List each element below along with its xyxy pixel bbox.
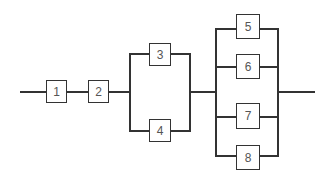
block-6: 6: [236, 54, 260, 79]
block-1: 1: [46, 80, 67, 103]
block-7: 7: [236, 103, 260, 129]
block-4: 4: [149, 119, 171, 142]
block-3: 3: [149, 43, 171, 66]
block-2: 2: [88, 80, 109, 103]
reliability-block-diagram: 1 2 3 4 5 6 7 8: [0, 0, 331, 178]
block-8: 8: [236, 145, 260, 170]
block-5: 5: [236, 14, 260, 39]
